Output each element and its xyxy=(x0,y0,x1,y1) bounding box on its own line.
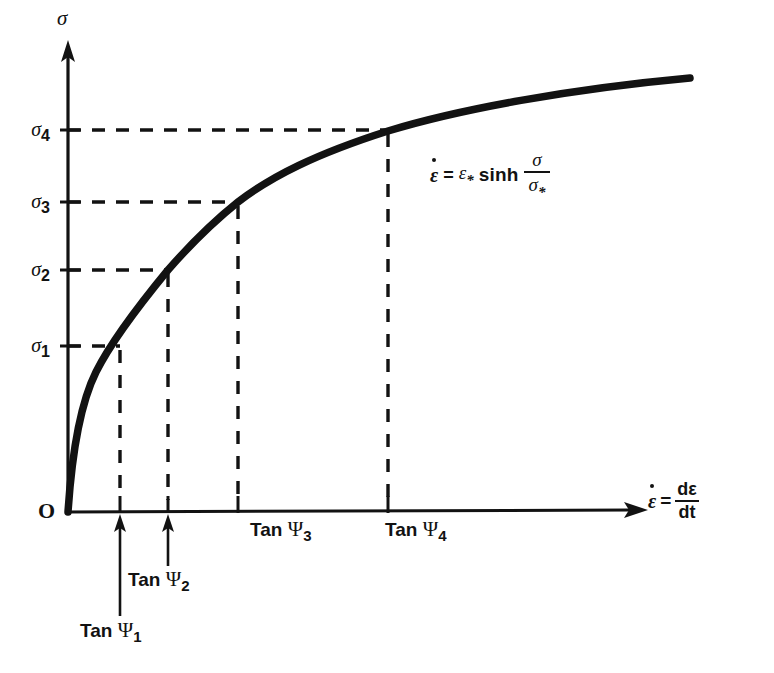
y-tick-label-sigma1: σ1 xyxy=(6,335,50,360)
x-tick-label-tanpsi1-symbol: Ψ xyxy=(118,618,134,642)
y-tick-label-sigma2-sub: 2 xyxy=(41,267,50,284)
x-axis-title-symbol: ε xyxy=(648,490,656,512)
derivative-fraction: dε dt xyxy=(675,480,699,522)
y-tick-label-sigma4: σ4 xyxy=(6,119,50,144)
y-axis-ticks xyxy=(60,130,80,346)
y-tick-label-sigma2-base: σ xyxy=(31,258,41,280)
y-tick-label-sigma3-base: σ xyxy=(31,190,41,212)
origin-label: O xyxy=(38,500,55,522)
x-axis-title: ε = dε dt xyxy=(648,480,699,522)
x-tick-label-tanpsi4: Tan Ψ4 xyxy=(385,519,447,543)
equation-numerator: σ xyxy=(527,150,546,169)
equation-sigma-fraction: σ σ* xyxy=(524,150,551,200)
y-tick-label-sigma1-sub: 1 xyxy=(41,343,50,360)
y-tick-label-sigma4-base: σ xyxy=(31,118,41,140)
derivative-denominator: dt xyxy=(677,503,698,522)
equation-equals: = xyxy=(443,166,454,184)
x-tick-label-tanpsi2-symbol: Ψ xyxy=(166,567,182,591)
x-tick-label-tanpsi2-prefix: Tan xyxy=(128,569,160,590)
x-tick-label-tanpsi3: Tan Ψ3 xyxy=(250,519,312,543)
epsilon-dot-symbol: ε xyxy=(648,491,656,511)
x-tick-label-tanpsi3-symbol: Ψ xyxy=(288,517,304,541)
x-tick-label-tanpsi4-prefix: Tan xyxy=(385,519,417,540)
x-tick-label-tanpsi1-prefix: Tan xyxy=(80,620,112,641)
y-axis-title: σ xyxy=(57,8,67,29)
horizontal-guides xyxy=(68,130,386,346)
x-axis xyxy=(66,502,648,518)
y-tick-label-sigma3-sub: 3 xyxy=(41,199,50,216)
equation-fraction-bar xyxy=(524,171,551,173)
x-tick-label-tanpsi4-symbol: Ψ xyxy=(423,517,439,541)
x-tick-label-tanpsi1-sub: 1 xyxy=(133,628,141,645)
x-tick-label-tanpsi1: Tan Ψ1 xyxy=(80,620,142,644)
equation-annotation: ε = ε* sinh σ σ* xyxy=(430,150,550,200)
x-tick-label-tanpsi4-sub: 4 xyxy=(438,527,446,544)
equation-denominator-base: σ xyxy=(529,174,538,195)
dot-accent-icon xyxy=(650,484,654,488)
dot-accent-icon xyxy=(432,158,436,162)
figure-root: σ σ4 σ3 σ2 σ1 O Tan Ψ3 Tan Ψ4 Tan Ψ2 Tan… xyxy=(0,0,774,673)
data-curve xyxy=(68,78,690,512)
equation-denominator-star: * xyxy=(538,184,546,200)
y-tick-label-sigma1-base: σ xyxy=(31,334,41,356)
equation-lhs-epsilon-dot: ε xyxy=(430,165,438,185)
equation-prefactor: ε* xyxy=(459,163,474,188)
plot-canvas xyxy=(0,0,774,673)
y-tick-label-sigma2: σ2 xyxy=(6,259,50,284)
x-tick-label-tanpsi2-sub: 2 xyxy=(181,577,189,594)
axis-callout-arrows xyxy=(114,514,174,616)
equation-lhs: ε xyxy=(430,164,438,186)
x-tick-label-tanpsi2: Tan Ψ2 xyxy=(128,569,190,593)
equation-prefactor-star: * xyxy=(466,171,474,187)
x-tick-label-tanpsi3-prefix: Tan xyxy=(250,519,282,540)
y-tick-label-sigma4-sub: 4 xyxy=(41,127,50,144)
derivative-numerator: dε xyxy=(675,480,699,499)
x-axis-title-equals: = xyxy=(660,491,671,510)
x-tick-label-tanpsi3-sub: 3 xyxy=(303,527,311,544)
equation-function: sinh xyxy=(479,165,519,184)
equation-denominator: σ* xyxy=(524,175,551,200)
y-tick-label-sigma3: σ3 xyxy=(6,191,50,216)
